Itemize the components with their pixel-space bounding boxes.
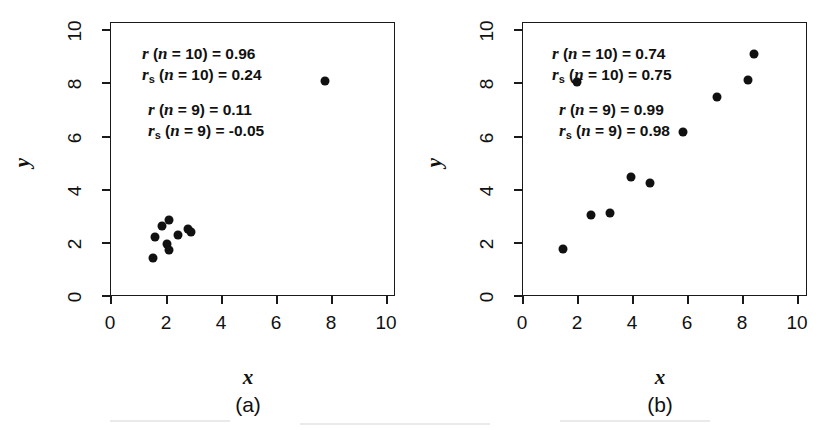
x-tick-8-b (742, 296, 744, 304)
y-ticklabel-10-a: 10 (64, 11, 86, 51)
data-point (165, 246, 174, 255)
y-ticklabel-4-b: 4 (476, 176, 498, 206)
x-tick-8-a (331, 296, 333, 304)
x-ticklabel-4-a: 4 (206, 312, 236, 334)
y-tick-2-b (514, 242, 522, 244)
y-tick-0-b (514, 295, 522, 297)
data-point (626, 172, 635, 181)
y-tick-2-a (102, 242, 110, 244)
x-ticklabel-2-b: 2 (562, 312, 592, 334)
annotation-n9-b: r (n = 9) = 0.99 rs (n = 9) = 0.98 (559, 100, 670, 141)
annotation-line-rs-n9-b: rs (n = 9) = 0.98 (559, 121, 670, 142)
y-ticklabel-0-b: 0 (476, 282, 498, 312)
data-point (148, 254, 157, 263)
scan-artifact (110, 420, 230, 422)
x-ticklabel-0-a: 0 (95, 312, 125, 334)
y-ticklabel-2-a: 2 (64, 229, 86, 259)
y-ticklabel-10-b: 10 (476, 11, 498, 51)
y-tick-8-b (514, 82, 522, 84)
y-tick-10-b (514, 29, 522, 31)
y-tick-6-a (102, 136, 110, 138)
y-tick-0-a (102, 295, 110, 297)
y-ticklabel-0-a: 0 (64, 282, 86, 312)
annotation-line-rs-n10-b: rs (n = 10) = 0.75 (552, 65, 672, 86)
data-point (750, 49, 759, 58)
x-ticklabel-8-a: 8 (316, 312, 346, 334)
data-point (164, 216, 173, 225)
y-tick-8-a (102, 82, 110, 84)
x-tick-2-a (166, 296, 168, 304)
data-point (187, 227, 196, 236)
x-ticklabel-10-a: 10 (366, 312, 406, 334)
x-tick-2-b (577, 296, 579, 304)
x-tick-4-a (221, 296, 223, 304)
annotation-line-r-n9-a: r (n = 9) = 0.11 (148, 100, 264, 121)
x-tick-0-a (110, 296, 112, 304)
x-tick-4-b (632, 296, 634, 304)
panel-caption-a: (a) (218, 393, 278, 417)
data-point (559, 245, 568, 254)
y-tick-4-a (102, 189, 110, 191)
x-tick-0-b (522, 296, 524, 304)
y-tick-10-a (102, 29, 110, 31)
data-point (174, 230, 183, 239)
x-tick-10-a (386, 296, 388, 304)
y-ticklabel-6-a: 6 (64, 123, 86, 153)
x-ticklabel-2-a: 2 (151, 312, 181, 334)
annotation-n9-a: r (n = 9) = 0.11 rs (n = 9) = -0.05 (148, 100, 264, 141)
scan-artifact (300, 423, 490, 425)
y-ticklabel-4-a: 4 (64, 176, 86, 206)
data-point (150, 232, 159, 241)
data-point (743, 76, 752, 85)
annotation-n10-a: r (n = 10) = 0.96 rs (n = 10) = 0.24 (142, 44, 262, 85)
x-axis-title-a: x (236, 365, 260, 390)
y-ticklabel-6-b: 6 (476, 123, 498, 153)
x-axis-title-b: x (648, 365, 672, 390)
annotation-line-rs-n9-a: rs (n = 9) = -0.05 (148, 121, 264, 142)
annotation-line-rs-n10-a: rs (n = 10) = 0.24 (142, 65, 262, 86)
y-axis-title-b: y (422, 151, 447, 175)
x-ticklabel-0-b: 0 (507, 312, 537, 334)
y-tick-6-b (514, 136, 522, 138)
scan-artifact (560, 420, 710, 422)
x-tick-6-a (276, 296, 278, 304)
data-point-outlier (321, 76, 330, 85)
data-point (678, 128, 687, 137)
annotation-line-r-n9-b: r (n = 9) = 0.99 (559, 100, 670, 121)
x-tick-6-b (687, 296, 689, 304)
y-ticklabel-2-b: 2 (476, 229, 498, 259)
y-axis-title-a: y (10, 151, 35, 175)
panel-a: 10 8 6 4 2 0 0 2 4 6 8 10 y x (a) r (n =… (0, 0, 420, 430)
data-point (606, 209, 615, 218)
data-point (645, 178, 654, 187)
annotation-line-r-n10-b: r (n = 10) = 0.74 (552, 44, 672, 65)
data-point (713, 93, 722, 102)
annotation-line-r-n10-a: r (n = 10) = 0.96 (142, 44, 262, 65)
data-point (586, 210, 595, 219)
panel-b: 10 8 6 4 2 0 0 2 4 6 8 10 y x (b) r (n =… (412, 0, 818, 430)
x-ticklabel-10-b: 10 (777, 312, 817, 334)
x-ticklabel-6-b: 6 (672, 312, 702, 334)
x-ticklabel-8-b: 8 (727, 312, 757, 334)
panel-caption-b: (b) (630, 393, 690, 417)
x-ticklabel-6-a: 6 (261, 312, 291, 334)
annotation-n10-b: r (n = 10) = 0.74 rs (n = 10) = 0.75 (552, 44, 672, 85)
x-ticklabel-4-b: 4 (617, 312, 647, 334)
data-point-outlier (573, 77, 582, 86)
figure-scatterplot-pair: 10 8 6 4 2 0 0 2 4 6 8 10 y x (a) r (n =… (0, 0, 818, 430)
y-ticklabel-8-a: 8 (64, 69, 86, 99)
x-tick-10-b (797, 296, 799, 304)
y-ticklabel-8-b: 8 (476, 69, 498, 99)
y-tick-4-b (514, 189, 522, 191)
